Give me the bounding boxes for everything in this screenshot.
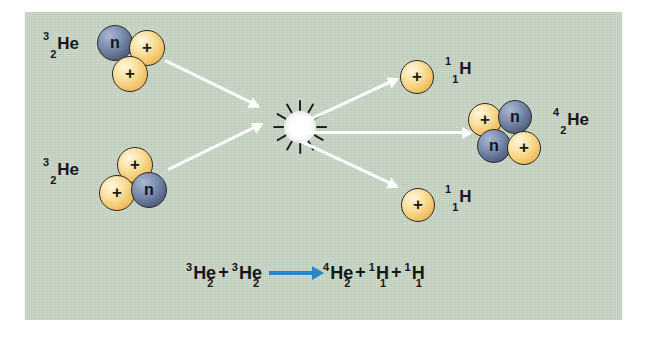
- eq-term-h1-a: 1H1: [369, 264, 388, 282]
- burst-spike: [276, 113, 287, 120]
- nucleon-neutron: n: [131, 172, 167, 208]
- atomic-number: 2: [560, 124, 566, 136]
- mass-number: 1: [445, 55, 451, 67]
- mass-number: 3: [43, 30, 49, 42]
- burst-spike: [299, 143, 301, 154]
- atomic-number: 2: [50, 174, 56, 186]
- mass-number: 1: [445, 183, 451, 195]
- burst-spike: [313, 134, 324, 141]
- isotope-label-h1-top: 11H: [445, 59, 472, 81]
- eq-term-h1-b: 1H1: [405, 264, 424, 282]
- nucleon-proton: +: [401, 188, 435, 222]
- mass-number: 4: [323, 261, 329, 273]
- nucleon-neutron: n: [477, 129, 511, 163]
- element-symbol: He: [57, 34, 79, 53]
- neutron-glyph: n: [510, 109, 520, 125]
- proton-glyph: +: [112, 184, 122, 201]
- atomic-number: 2: [207, 277, 213, 289]
- isotope-label-he3-bottom: 32He: [43, 160, 79, 182]
- atomic-number: 2: [50, 48, 56, 60]
- burst-spike: [307, 103, 314, 114]
- atomic-number: 1: [452, 201, 458, 213]
- eq-plus: +: [355, 262, 366, 283]
- mass-number: 3: [43, 156, 49, 168]
- proton-glyph: +: [125, 65, 135, 82]
- neutron-glyph: n: [489, 138, 499, 154]
- fusion-diagram: 32He n + + 32He + + n: [0, 0, 647, 338]
- mass-number: 1: [405, 261, 411, 273]
- element-symbol: He: [57, 160, 79, 179]
- isotope-label-he4: 42He: [553, 110, 589, 132]
- mass-number: 3: [232, 261, 238, 273]
- nucleon-neutron: n: [498, 100, 532, 134]
- burst-spike: [276, 134, 287, 141]
- eq-plus: +: [391, 262, 402, 283]
- proton-glyph: +: [142, 39, 152, 56]
- burst-spike: [286, 103, 293, 114]
- reaction-arrow-in-top: [164, 59, 259, 107]
- mass-number: 3: [186, 261, 192, 273]
- neutron-glyph: n: [144, 182, 154, 198]
- proton-glyph: +: [130, 156, 140, 173]
- burst-spike: [286, 140, 293, 151]
- atomic-number: 2: [253, 277, 259, 289]
- nucleon-proton: +: [99, 175, 135, 211]
- neutron-glyph: n: [110, 35, 120, 51]
- mass-number: 1: [369, 261, 375, 273]
- reaction-arrow-in-bottom: [167, 123, 262, 171]
- proton-glyph: +: [412, 68, 422, 85]
- proton-glyph: +: [413, 196, 423, 213]
- atomic-number: 1: [416, 277, 422, 289]
- nucleon-proton: +: [112, 56, 148, 92]
- burst-spike: [273, 126, 284, 128]
- atomic-number: 2: [344, 277, 350, 289]
- nucleon-proton: +: [400, 60, 434, 94]
- eq-term-he4: 4He2: [323, 264, 352, 282]
- element-symbol: H: [459, 59, 471, 78]
- proton-glyph: +: [480, 111, 490, 128]
- element-symbol: He: [567, 110, 589, 129]
- nucleon-proton: +: [507, 131, 541, 165]
- atomic-number: 1: [380, 277, 386, 289]
- yields-arrow-icon: [269, 271, 313, 275]
- eq-term-he3-a: 3He2: [186, 264, 215, 282]
- reaction-arrow-out-bottom: [300, 140, 397, 188]
- eq-term-he3-b: 3He2: [232, 264, 261, 282]
- element-symbol: H: [459, 187, 471, 206]
- fusion-burst-icon: [272, 99, 328, 155]
- atomic-number: 1: [452, 73, 458, 85]
- mass-number: 4: [553, 106, 559, 118]
- eq-plus: +: [218, 262, 229, 283]
- isotope-label-h1-bottom: 11H: [445, 187, 472, 209]
- reaction-arrow-out-middle: [305, 131, 471, 134]
- proton-glyph: +: [519, 139, 529, 156]
- burst-spike: [316, 126, 327, 128]
- burst-spike: [299, 100, 301, 111]
- reaction-equation: 3He2 + 3He2 4He2 + 1H1 + 1H1: [185, 262, 425, 283]
- isotope-label-he3-top: 32He: [43, 34, 79, 56]
